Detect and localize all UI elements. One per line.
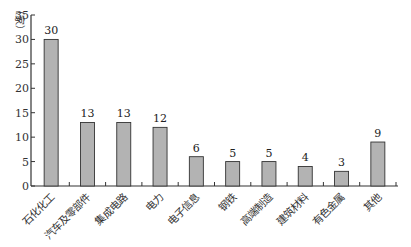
bar-value-label: 13	[117, 107, 131, 120]
y-axis-label: （家）	[14, 5, 26, 35]
bar-value-label: 6	[193, 142, 200, 155]
bar-value-label: 30	[44, 24, 58, 37]
bar	[262, 162, 276, 186]
category-label: 钢铁	[215, 190, 238, 213]
category-label: 石化化工	[20, 191, 57, 228]
bar-value-label: 5	[265, 147, 272, 160]
y-axis: 05101520253035	[15, 9, 35, 193]
bar	[226, 162, 240, 186]
bar	[153, 127, 167, 186]
bar	[298, 166, 312, 186]
category-label: 电子信息	[165, 191, 202, 228]
y-tick-label: 10	[15, 131, 29, 144]
bar	[44, 39, 58, 186]
category-label: 电力	[143, 191, 166, 214]
category-labels: 石化化工汽车及零部件集成电路电力电子信息钢铁高端制造建筑材料有色金属其他	[20, 190, 384, 242]
bar-value-label: 13	[80, 107, 94, 120]
y-tick-label: 15	[15, 107, 29, 120]
y-tick-label: 30	[15, 33, 29, 46]
category-label: 建筑材料	[274, 190, 311, 227]
y-tick-label: 20	[15, 82, 29, 95]
bar-value-label: 3	[338, 156, 345, 169]
bar	[117, 122, 131, 186]
y-tick-label: 5	[22, 156, 29, 169]
bar	[189, 157, 203, 186]
bar-chart: 05101520253035 30131312655439 石化化工汽车及零部件…	[0, 0, 411, 247]
bar	[80, 122, 94, 186]
bar-value-label: 12	[153, 112, 167, 125]
category-label: 有色金属	[310, 191, 347, 228]
bar-value-label: 4	[302, 151, 309, 164]
category-label: 集成电路	[92, 190, 129, 227]
bar-value-label: 5	[229, 147, 236, 160]
bar	[371, 142, 385, 186]
category-label: 其他	[361, 190, 384, 213]
y-tick-label: 25	[15, 58, 29, 71]
y-tick-label: 0	[22, 180, 29, 193]
category-label: 高端制造	[238, 190, 275, 227]
bars	[44, 39, 385, 186]
bar-value-label: 9	[374, 127, 381, 140]
y-axis-unit-label: （家）	[14, 5, 26, 35]
bar	[335, 171, 349, 186]
